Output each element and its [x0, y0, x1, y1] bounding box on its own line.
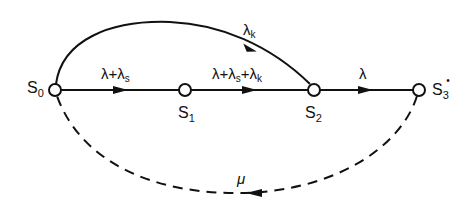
node-s3 — [413, 84, 425, 96]
node-s0 — [49, 84, 61, 96]
node-label-s3: S3• — [432, 82, 449, 101]
edge-label-s3-s0-dashed: μ — [237, 171, 245, 186]
edge-label-s0-s1: λ+λs — [101, 66, 130, 84]
diagram-canvas — [0, 0, 470, 205]
edge-label-s0-s2-arc: λk — [243, 22, 256, 40]
arrow-icon — [246, 189, 262, 197]
arrow-icon — [358, 86, 373, 94]
arrow-icon — [113, 86, 128, 94]
node-s2 — [308, 84, 320, 96]
node-label-s1: S1 — [178, 105, 195, 124]
state-transition-diagram: S0 S1 S2 S3• λ+λs λ+λs+λk λ λk μ — [0, 0, 470, 205]
edge-s0-s2-arc — [56, 22, 310, 84]
edge-label-s2-s3: λ — [359, 66, 367, 81]
arrow-icon — [242, 86, 257, 94]
node-label-s0: S0 — [27, 80, 44, 99]
node-label-s2: S2 — [305, 105, 322, 124]
edge-label-s1-s2: λ+λs+λk — [212, 66, 262, 84]
node-s1 — [179, 84, 191, 96]
